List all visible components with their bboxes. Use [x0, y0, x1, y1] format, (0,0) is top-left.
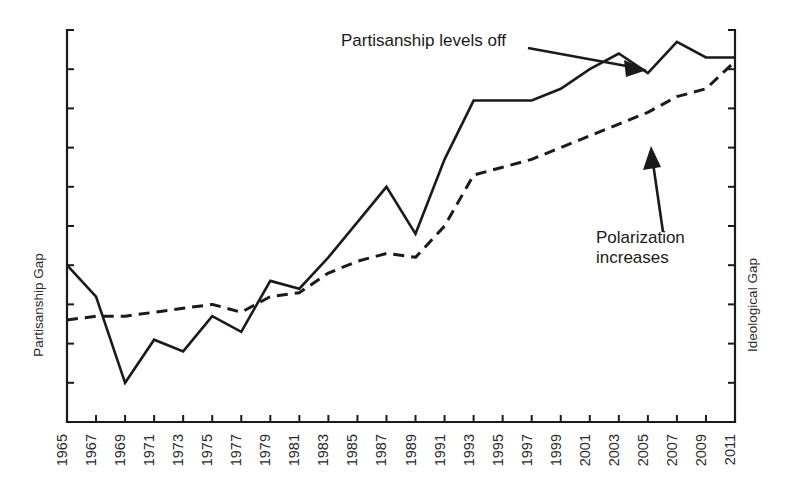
x-axis-tick-label: 1981 — [286, 434, 302, 466]
annotation-polarization-label-line2: increases — [596, 248, 669, 267]
x-axis-tick-label: 1983 — [315, 434, 331, 466]
x-axis-tick-label: 1965 — [54, 434, 70, 466]
annotation-polarization-label-line1: Polarization — [596, 228, 685, 247]
x-axis-tick-label: 1989 — [403, 434, 419, 466]
x-axis-tick-label: 1973 — [170, 434, 186, 466]
x-axis-tick-label: 1975 — [199, 434, 215, 466]
x-axis-tick-label: 1985 — [344, 434, 360, 466]
chart-figure: 1965196719691971197319751977197919811983… — [0, 0, 786, 490]
x-axis-tick-label: 2003 — [606, 434, 622, 466]
x-axis-tick-label: 1979 — [257, 434, 273, 466]
x-axis-tick-label: 1967 — [83, 434, 99, 466]
x-axis-tick-label: 2007 — [664, 434, 680, 466]
x-axis-tick-label: 1993 — [461, 434, 477, 466]
x-axis-tick-label: 2005 — [635, 434, 651, 466]
x-axis-tick-label: 1997 — [519, 434, 535, 466]
x-axis-tick-label: 1977 — [228, 434, 244, 466]
x-axis-tick-label: 1969 — [112, 434, 128, 466]
polarization-line-chart: 1965196719691971197319751977197919811983… — [0, 0, 786, 490]
annotation-partisanship-label: Partisanship levels off — [341, 31, 506, 50]
x-axis-tick-label: 1995 — [490, 434, 506, 466]
x-axis-tick-label: 2009 — [693, 434, 709, 466]
x-axis-tick-label: 1999 — [548, 434, 564, 466]
left-axis-title: Partisanship Gap — [31, 253, 46, 357]
x-axis-tick-label: 1991 — [432, 434, 448, 466]
x-axis-tick-label: 2011 — [722, 434, 738, 465]
x-axis-tick-label: 2001 — [577, 434, 593, 466]
x-axis-tick-label: 1987 — [373, 434, 389, 466]
x-axis-tick-label: 1971 — [141, 434, 157, 466]
right-axis-title: Ideological Gap — [745, 258, 760, 352]
